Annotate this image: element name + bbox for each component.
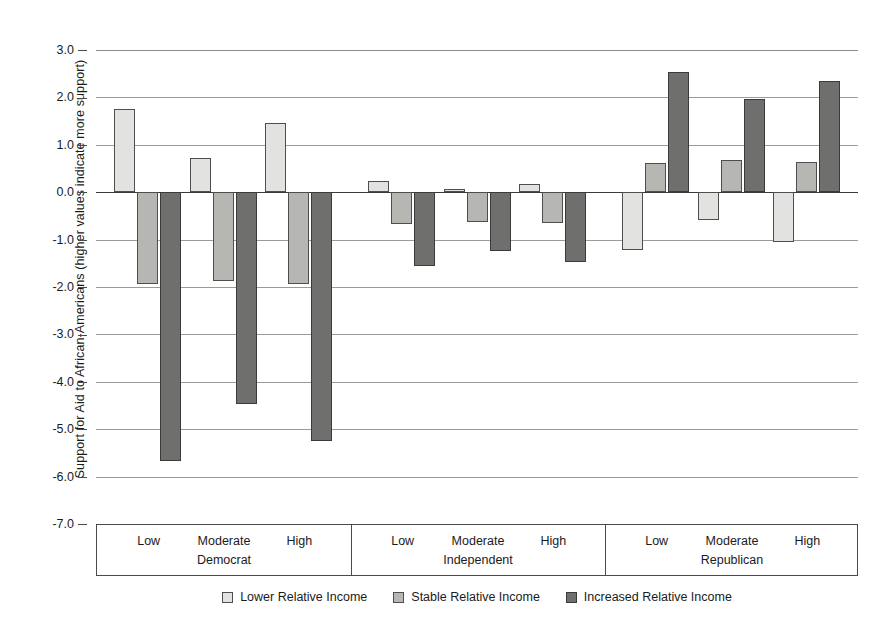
bar xyxy=(368,181,389,192)
y-tick-mark xyxy=(78,192,87,193)
category-label: Low xyxy=(137,534,160,548)
y-tick-label: 1.0 xyxy=(57,138,87,152)
category-label: Low xyxy=(645,534,668,548)
bar xyxy=(288,192,309,283)
legend-item[interactable]: Stable Relative Income xyxy=(393,590,540,604)
bar xyxy=(160,192,181,461)
bar xyxy=(698,192,719,219)
y-tick-mark xyxy=(78,287,87,288)
y-tick-label: -7.0 xyxy=(52,517,87,531)
y-tick-mark xyxy=(78,335,87,336)
bar xyxy=(721,160,742,192)
bar xyxy=(213,192,234,281)
bar xyxy=(467,192,488,221)
y-tick-mark xyxy=(78,477,87,478)
series-2-swatch xyxy=(566,592,577,603)
category-label: High xyxy=(794,534,820,548)
y-tick-mark xyxy=(78,382,87,383)
bar xyxy=(622,192,643,250)
category-label: Moderate xyxy=(198,534,251,548)
bar xyxy=(519,184,540,192)
bar xyxy=(265,123,286,192)
bar xyxy=(773,192,794,242)
bar xyxy=(236,192,257,404)
y-tick-mark xyxy=(78,145,87,146)
y-tick-mark xyxy=(78,524,87,525)
group-label: Republican xyxy=(701,553,764,567)
chart-legend: Lower Relative IncomeStable Relative Inc… xyxy=(96,586,858,608)
bar xyxy=(137,192,158,283)
y-tick-mark xyxy=(78,98,87,99)
legend-item[interactable]: Increased Relative Income xyxy=(566,590,732,604)
category-label: High xyxy=(286,534,312,548)
y-tick-mark xyxy=(78,50,87,51)
y-tick-label: 2.0 xyxy=(57,90,87,104)
bar xyxy=(565,192,586,262)
bar xyxy=(190,158,211,192)
y-tick-mark xyxy=(78,240,87,241)
bar xyxy=(414,192,435,265)
y-tick-label: -2.0 xyxy=(52,280,87,294)
bar xyxy=(645,163,666,192)
y-tick-label: -5.0 xyxy=(52,422,87,436)
bar xyxy=(391,192,412,224)
y-tick-label: 0.0 xyxy=(57,185,87,199)
bar xyxy=(668,72,689,192)
category-label: High xyxy=(540,534,566,548)
category-axis: LowModerateHighLowModerateHighLowModerat… xyxy=(96,524,858,576)
bars-layer xyxy=(96,50,858,524)
bar xyxy=(444,189,465,192)
y-tick-label: -1.0 xyxy=(52,233,87,247)
series-1-swatch xyxy=(393,592,404,603)
bar xyxy=(114,109,135,192)
bar xyxy=(796,162,817,192)
legend-item[interactable]: Lower Relative Income xyxy=(222,590,367,604)
bar xyxy=(744,99,765,192)
legend-label: Lower Relative Income xyxy=(240,590,367,604)
y-tick-label: -4.0 xyxy=(52,375,87,389)
bar xyxy=(490,192,511,251)
group-divider xyxy=(605,525,606,575)
bar-chart-figure: Support for Aid to African-Americans (hi… xyxy=(0,0,889,619)
y-axis-title: Support for Aid to African-Americans (hi… xyxy=(73,9,87,529)
group-label: Independent xyxy=(443,553,513,567)
series-0-swatch xyxy=(222,592,233,603)
bar xyxy=(311,192,332,441)
y-tick-mark xyxy=(78,429,87,430)
y-tick-label: -6.0 xyxy=(52,470,87,484)
y-tick-label: -3.0 xyxy=(52,327,87,341)
group-divider xyxy=(351,525,352,575)
legend-label: Increased Relative Income xyxy=(584,590,732,604)
y-tick-label: 3.0 xyxy=(57,43,87,57)
bar xyxy=(542,192,563,223)
group-label: Democrat xyxy=(197,553,251,567)
legend-label: Stable Relative Income xyxy=(411,590,540,604)
category-label: Moderate xyxy=(706,534,759,548)
category-label: Moderate xyxy=(452,534,505,548)
category-label: Low xyxy=(391,534,414,548)
bar xyxy=(819,81,840,192)
plot-area: 3.02.01.00.0-1.0-2.0-3.0-4.0-5.0-6.0-7.0 xyxy=(96,50,858,524)
